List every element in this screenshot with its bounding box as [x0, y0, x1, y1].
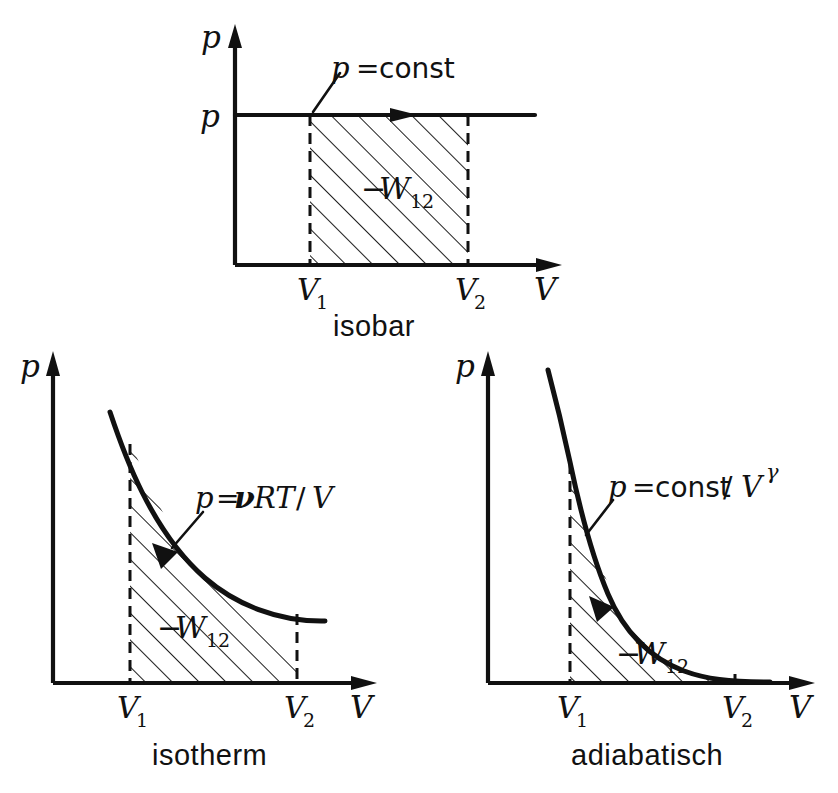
figure-canvas: p = const p V p − W 12 V 1 V 2 [0, 0, 838, 793]
adiabatic-equation-label: p = const / V γ [608, 460, 779, 504]
adiabatic-equation-V: V [741, 470, 765, 504]
isobar-tick-v1: V 1 [297, 272, 328, 313]
isobar-equation-const: const [379, 52, 455, 85]
panel-adiabatic: p = const / V γ p V − W 12 V 1 V [455, 348, 815, 771]
isobar-equation-p: p [331, 51, 350, 85]
adiabatic-work-subscript: 12 [665, 655, 689, 677]
adiabatic-work-W: W [634, 636, 667, 671]
isotherm-equation-leader-line [172, 512, 203, 548]
isobar-tick-v2-sub: 2 [474, 291, 486, 313]
adiabatic-tick-v1: V 1 [557, 690, 588, 731]
adiabatic-x-axis-label: V [789, 689, 815, 725]
adiabatic-work-label: − W 12 [616, 636, 689, 677]
isotherm-caption: isotherm [152, 739, 267, 771]
isobar-work-W: W [379, 171, 412, 206]
panel-isotherm: p = ν RT / V p V − W 12 V 1 V [20, 348, 377, 771]
adiabatic-equation-const: const [655, 471, 731, 504]
isobar-x-axis-arrow-icon [536, 258, 562, 272]
adiabatic-equation-p: p [608, 470, 627, 504]
isotherm-equation-slash: / [296, 482, 306, 515]
adiabatic-y-axis [481, 351, 495, 683]
adiabatic-y-axis-label: p [455, 348, 475, 384]
isotherm-x-axis-arrow-icon [351, 676, 377, 690]
adiabatic-caption: adiabatisch [571, 739, 723, 771]
isobar-pressure-tick-label: p [200, 98, 220, 134]
isotherm-equation-label: p = ν RT / V [195, 480, 336, 515]
adiabatic-x-axis-arrow-icon [789, 676, 815, 690]
adiabatic-tick-v1-sub: 1 [576, 709, 588, 731]
isobar-x-axis-label: V [534, 271, 560, 307]
isotherm-tick-v1-sub: 1 [136, 709, 148, 731]
isobar-tick-v2: V 2 [455, 272, 486, 313]
panel-isobar: p = const p V p − W 12 V 1 V 2 [200, 19, 562, 342]
adiabatic-equation-gamma-exponent: γ [766, 460, 779, 484]
isobar-y-axis-arrow-icon [228, 24, 242, 48]
isotherm-work-W: W [175, 610, 208, 645]
isobar-y-axis [228, 24, 242, 265]
isotherm-y-axis [46, 351, 60, 683]
isotherm-equation-nu: ν [234, 480, 255, 515]
isotherm-equation-V: V [312, 481, 336, 515]
isobar-y-axis-label: p [201, 19, 221, 55]
adiabatic-tick-v2: V 2 [722, 690, 753, 731]
isotherm-tick-v2: V 2 [284, 690, 315, 731]
isobar-caption: isobar [333, 310, 415, 342]
isobar-equation-label: p = const [331, 51, 455, 85]
isotherm-x-axis-label: V [350, 689, 376, 725]
pv-diagram-figure: p = const p V p − W 12 V 1 V 2 [0, 0, 838, 793]
isotherm-equation-p: p [195, 481, 214, 515]
isotherm-work-subscript: 12 [206, 629, 230, 651]
isotherm-tick-v2-sub: 2 [303, 709, 315, 731]
adiabatic-y-axis-arrow-icon [481, 351, 495, 376]
adiabatic-equation-leader-line [586, 500, 613, 535]
isotherm-tick-v1: V 1 [117, 690, 148, 731]
isobar-tick-v1-sub: 1 [316, 291, 328, 313]
adiabatic-equation-equals: = [632, 471, 655, 504]
adiabatic-equation-slash: / [723, 471, 733, 504]
isobar-work-subscript: 12 [410, 190, 434, 212]
isobar-equation-equals: = [356, 52, 379, 85]
isotherm-y-axis-label: p [20, 348, 40, 384]
isotherm-y-axis-arrow-icon [46, 351, 60, 376]
isotherm-equation-RT: RT [253, 481, 297, 515]
adiabatic-tick-v2-sub: 2 [741, 709, 753, 731]
